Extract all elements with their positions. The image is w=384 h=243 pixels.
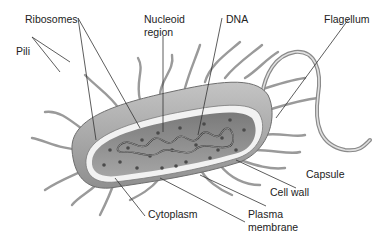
label-nucleoid-region-line2: region (144, 26, 173, 38)
label-ribosomes: Ribosomes (25, 13, 78, 25)
cell-illustration (0, 0, 384, 243)
label-dna: DNA (226, 13, 248, 25)
label-pili: Pili (16, 45, 30, 57)
label-capsule: Capsule (306, 168, 345, 180)
label-nucleoid-region-line1: Nucleoid (144, 13, 185, 25)
label-flagellum: Flagellum (324, 13, 370, 25)
bacterial-cell-diagram: Ribosomes Nucleoid region DNA Flagellum … (0, 0, 384, 243)
label-plasma-membrane-line1: Plasma (248, 208, 283, 220)
label-cytoplasm: Cytoplasm (148, 208, 198, 220)
label-plasma-membrane-line2: membrane (248, 221, 298, 233)
label-cell-wall: Cell wall (270, 186, 309, 198)
